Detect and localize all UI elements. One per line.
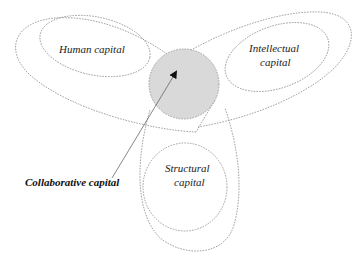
collaborative-capital-center-circle <box>149 49 219 119</box>
collaborative-capital-label: Collaborative capital <box>25 176 120 188</box>
intellectual-capital-label-line1: Intellectual <box>248 42 299 54</box>
human-capital-label: Human capital <box>58 43 125 55</box>
capital-diagram: Human capital Intellectual capital Struc… <box>0 0 363 264</box>
structural-capital-label-line1: Structural <box>165 162 210 174</box>
intellectual-capital-label-line2: capital <box>260 56 291 68</box>
structural-capital-label-line2: capital <box>174 176 205 188</box>
